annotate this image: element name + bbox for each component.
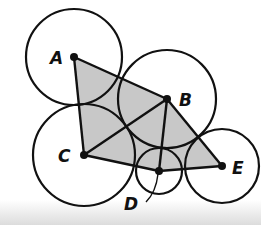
d-leader-line	[146, 174, 158, 202]
point-c	[80, 151, 88, 159]
point-d	[155, 167, 163, 175]
label-a: A	[48, 48, 63, 68]
label-e: E	[232, 158, 244, 178]
point-b	[163, 95, 171, 103]
label-c: C	[58, 146, 71, 166]
label-b: B	[179, 90, 192, 110]
point-a	[70, 53, 78, 61]
point-e	[218, 162, 226, 170]
label-d: D	[124, 194, 138, 214]
geometry-diagram: A B C D E	[0, 0, 261, 225]
shaded-region	[74, 57, 222, 171]
diagram-canvas: A B C D E	[0, 0, 261, 225]
